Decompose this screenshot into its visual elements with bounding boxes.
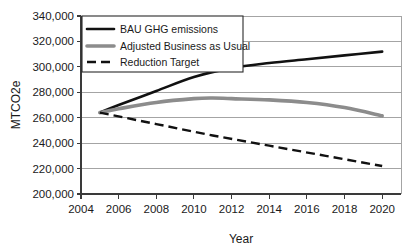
x-tick-label-2012: 2012 (219, 203, 245, 215)
x-tick-label-2006: 2006 (106, 203, 132, 215)
y-tick-label-200000: 200,000 (32, 188, 74, 200)
x-tick-label-2016: 2016 (294, 203, 320, 215)
x-tick-label-2010: 2010 (181, 203, 207, 215)
y-tick-label-280000: 280,000 (32, 86, 74, 98)
series-line-reduction-target (100, 113, 382, 166)
x-tick-label-2020: 2020 (369, 203, 395, 215)
x-tick-label-2004: 2004 (68, 203, 94, 215)
series-line-adjusted-business-as-usual (100, 98, 382, 116)
y-tick-label-240000: 240,000 (32, 137, 74, 149)
y-tick-label-340000: 340,000 (32, 10, 74, 22)
y-axis-title: MTCO2e (9, 80, 23, 129)
x-tick-label-2008: 2008 (143, 203, 169, 215)
legend-label-bau-ghg-emissions: BAU GHG emissions (120, 23, 218, 35)
ghg-emissions-line-chart: 200,000220,000240,000260,000280,000300,0… (0, 0, 410, 250)
legend-label-reduction-target: Reduction Target (120, 56, 199, 68)
y-tick-label-220000: 220,000 (32, 163, 74, 175)
y-tick-label-260000: 260,000 (32, 112, 74, 124)
y-tick-label-300000: 300,000 (32, 61, 74, 73)
x-tick-label-2018: 2018 (332, 203, 358, 215)
chart-canvas: 200,000220,000240,000260,000280,000300,0… (0, 0, 410, 250)
y-tick-label-320000: 320,000 (32, 35, 74, 47)
x-tick-label-2014: 2014 (256, 203, 282, 215)
x-axis-title: Year (229, 232, 253, 246)
legend-label-adjusted-business-as-usual: Adjusted Business as Usual (120, 40, 250, 52)
